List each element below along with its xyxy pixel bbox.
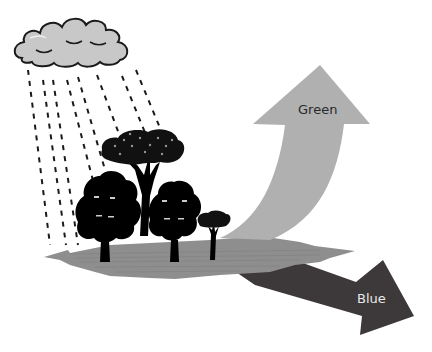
blue-water-label: Blue: [357, 292, 386, 305]
green-water-label: Green: [298, 103, 337, 116]
green-arrow: [220, 65, 370, 240]
rain-cloud-icon: [15, 19, 128, 67]
